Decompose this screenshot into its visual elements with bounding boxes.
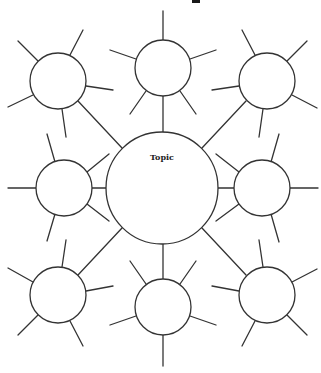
bubble-bottom[interactable] [135,279,191,335]
bubble-middle-left[interactable] [36,160,92,216]
bubble-top[interactable] [135,40,191,96]
bubble-bottom-right[interactable] [239,267,295,323]
topic-label: Topic [150,152,174,162]
bubble-map-diagram: Topic [0,0,321,373]
clipped-title-fragment [192,0,200,3]
connector-top-left [78,101,122,148]
connector-bottom-left [78,228,122,275]
connector-bottom-right [202,228,246,275]
central-topic-bubble[interactable] [106,132,218,244]
connector-top-right [202,101,246,148]
bubble-middle-right[interactable] [234,160,290,216]
bubble-top-right[interactable] [239,53,295,109]
bubble-bottom-left[interactable] [30,267,86,323]
bubble-top-left[interactable] [30,53,86,109]
